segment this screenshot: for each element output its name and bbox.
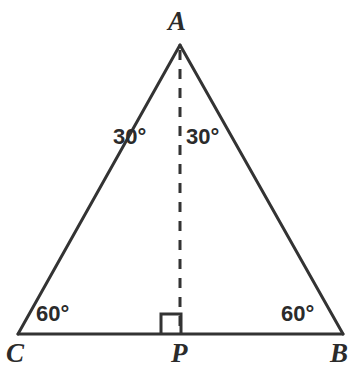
angle-label-apex-left: 30° [113,126,146,148]
right-angle-marker-icon [161,314,181,334]
side-CA [18,45,180,334]
angle-label-apex-right: 30° [186,126,219,148]
side-AB [180,45,343,334]
vertex-label-b: B [330,340,348,367]
vertex-label-a: A [168,8,186,35]
angle-label-base-left: 60° [36,303,69,325]
vertex-label-p: P [171,340,188,367]
vertex-label-c: C [6,340,24,367]
angle-label-base-right: 60° [281,303,314,325]
